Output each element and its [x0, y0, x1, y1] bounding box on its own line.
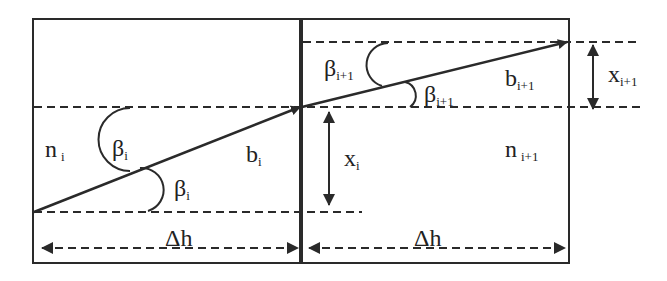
label-ni: ni	[45, 136, 65, 164]
label-beta-upper-right: βi+1	[324, 55, 354, 83]
angle-arc-lower-left	[140, 168, 164, 211]
label-xi: xi	[344, 145, 360, 173]
label-xi1: xi+1	[608, 61, 637, 89]
label-beta-lower-right: βi+1	[424, 81, 454, 109]
label-bi1: bi+1	[505, 65, 534, 93]
label-beta-lower-left: βi	[174, 175, 190, 203]
label-bi: bi	[246, 141, 262, 169]
label-beta-upper-left: βi	[112, 135, 128, 163]
angle-arc-upper-right	[367, 43, 388, 86]
refraction-diagram: ni βi βi bi Δh βi+1 βi+1 bi+1 ni+1 Δh xi…	[0, 0, 667, 281]
label-delta-h-right: Δh	[414, 225, 441, 251]
label-delta-h-left: Δh	[165, 225, 192, 251]
label-ni1: ni+1	[505, 136, 538, 164]
angle-arc-lower-right	[405, 82, 416, 107]
